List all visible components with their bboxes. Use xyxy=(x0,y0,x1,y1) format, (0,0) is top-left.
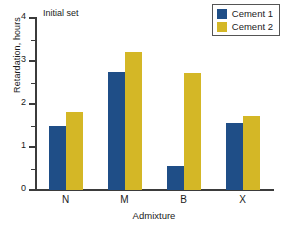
y-tick-major xyxy=(29,189,35,191)
bar xyxy=(125,52,142,190)
x-tick-label: B xyxy=(164,194,204,205)
y-tick-minor xyxy=(31,83,35,84)
legend-swatch-icon xyxy=(217,9,227,19)
x-axis-title: Admixture xyxy=(36,210,272,221)
legend-label: Cement 2 xyxy=(232,21,273,32)
legend-swatch-icon xyxy=(217,22,227,32)
y-tick-major xyxy=(29,17,35,19)
y-tick-label: 0 xyxy=(6,183,26,193)
x-tick-label: M xyxy=(105,194,145,205)
y-tick-major xyxy=(29,60,35,62)
bar xyxy=(167,166,184,190)
y-tick-minor xyxy=(31,126,35,127)
plot-area xyxy=(36,18,272,190)
bar xyxy=(184,73,201,190)
y-tick-label: 4 xyxy=(6,11,26,21)
bar xyxy=(243,116,260,190)
legend: Cement 1Cement 2 xyxy=(212,4,280,36)
bar xyxy=(226,123,243,191)
bar xyxy=(66,112,83,190)
bar xyxy=(49,126,66,191)
y-tick-label: 1 xyxy=(6,140,26,150)
legend-label: Cement 1 xyxy=(232,8,273,19)
y-tick-major xyxy=(29,146,35,148)
bar xyxy=(108,72,125,190)
legend-item: Cement 2 xyxy=(217,21,273,32)
y-tick-minor xyxy=(31,40,35,41)
bar-group xyxy=(49,18,83,190)
y-tick-label: 2 xyxy=(6,97,26,107)
x-tick-label: X xyxy=(223,194,263,205)
y-tick-major xyxy=(29,103,35,105)
bar-group xyxy=(108,18,142,190)
legend-item: Cement 1 xyxy=(217,8,273,19)
bar-group xyxy=(167,18,201,190)
plot-title: Initial set xyxy=(43,8,79,18)
bar-chart: Retardation, hours Initial set 01234 NMB… xyxy=(0,0,284,235)
y-tick-minor xyxy=(31,169,35,170)
bar-group xyxy=(226,18,260,190)
x-tick-label: N xyxy=(46,194,86,205)
y-tick-label: 3 xyxy=(6,54,26,64)
